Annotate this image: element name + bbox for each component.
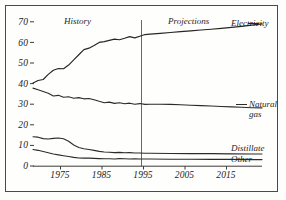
xtick-label-1985: 1985 bbox=[85, 170, 119, 180]
xtick-label-1975: 1975 bbox=[43, 170, 77, 180]
series-paths bbox=[33, 24, 262, 160]
series-line-distillate bbox=[33, 137, 262, 154]
chart-figure: 70 60 50 40 30 20 10 0 1975 1985 1995 20… bbox=[0, 0, 286, 200]
ytick-label-10: 10 bbox=[6, 140, 28, 150]
xtick-label-2015: 2015 bbox=[209, 170, 243, 180]
series-line-electricity bbox=[33, 24, 262, 83]
ytick-label-0: 0 bbox=[6, 161, 28, 171]
series-label-distillate: Distillate bbox=[231, 144, 265, 154]
series-label-natural-gas: Natural gas bbox=[249, 100, 277, 119]
series-label-other: Other bbox=[231, 155, 252, 165]
series-line-other bbox=[33, 150, 262, 160]
xtick-label-2005: 2005 bbox=[168, 170, 202, 180]
series-label-natural-gas-line2: gas bbox=[249, 110, 277, 120]
ytick-label-70: 70 bbox=[6, 17, 28, 27]
ytick-label-50: 50 bbox=[6, 58, 28, 68]
ytick-label-40: 40 bbox=[6, 79, 28, 89]
series-leader-lines bbox=[236, 24, 259, 105]
xtick-label-1995: 1995 bbox=[126, 170, 160, 180]
series-label-electricity: Electricity bbox=[231, 19, 268, 29]
series-line-natural-gas bbox=[33, 88, 262, 108]
ytick-label-30: 30 bbox=[6, 99, 28, 109]
y-axis-ticks bbox=[30, 22, 34, 166]
ytick-label-60: 60 bbox=[6, 38, 28, 48]
annotation-projections: Projections bbox=[168, 16, 209, 26]
annotation-history: History bbox=[64, 16, 91, 26]
ytick-label-20: 20 bbox=[6, 120, 28, 130]
